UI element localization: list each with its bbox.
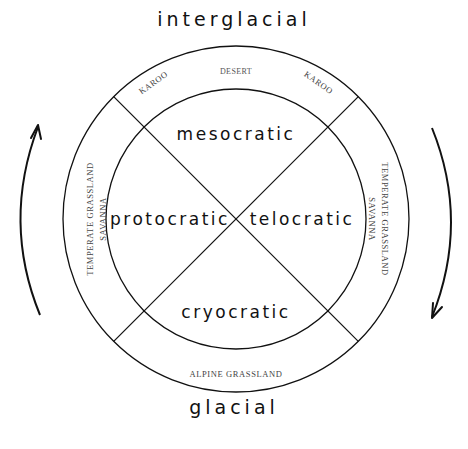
left-savanna-label: SAVANNA	[98, 197, 108, 241]
karoo-left-label: KAROO	[137, 69, 170, 96]
protocratic-label: protocratic	[110, 209, 230, 229]
up-arrow-icon	[20, 125, 41, 315]
left-temperate-grassland-label: TEMPERATE GRASSLAND	[85, 162, 95, 276]
telocratic-label: telocratic	[250, 209, 355, 229]
alpine-grassland-label: ALPINE GRASSLAND	[190, 369, 283, 379]
right-temperate-grassland-label: TEMPERATE GRASSLAND	[380, 162, 390, 276]
glacial-cycle-diagram: interglacial glacial mesocratic protocra…	[0, 0, 468, 449]
desert-label: DESERT	[220, 67, 252, 76]
right-savanna-label: SAVANNA	[367, 197, 377, 241]
cryocratic-label: cryocratic	[181, 302, 290, 322]
mesocratic-label: mesocratic	[177, 124, 296, 144]
cycle-figure: mesocratic protocratic telocratic cryocr…	[0, 0, 468, 449]
karoo-right-label: KAROO	[302, 69, 335, 96]
down-arrow-icon	[432, 128, 451, 318]
